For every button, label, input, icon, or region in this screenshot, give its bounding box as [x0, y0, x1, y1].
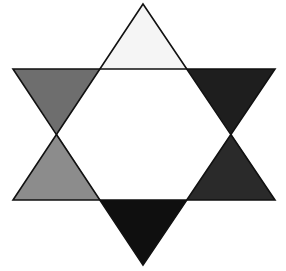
diagram-canvas [0, 0, 286, 271]
six-pointed-star-diagram [0, 0, 286, 271]
star-point-bottom [100, 200, 187, 265]
star-point-top [100, 4, 187, 69]
